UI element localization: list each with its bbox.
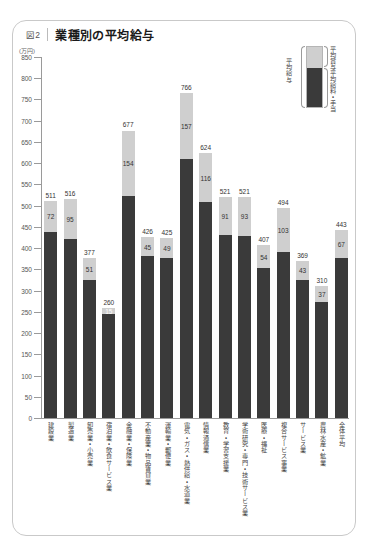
x-axis-category-label: サービス業 (299, 422, 305, 454)
y-axis-tick-label: 800 (0, 75, 32, 82)
x-axis-category-label: 宿泊業・飲食サービス業 (106, 422, 112, 491)
y-axis-tick (34, 227, 41, 228)
y-axis-tick-label: 850 (0, 54, 32, 61)
legend-swatch-bonus (307, 47, 322, 68)
bar-column: 37751 (83, 258, 96, 418)
bar-segment-base (141, 256, 154, 418)
legend-swatch-base (307, 68, 322, 107)
x-axis-category-label: 複合サービス事業 (280, 422, 286, 472)
y-axis-tick-label: 550 (0, 181, 32, 188)
y-axis-tick-label: 350 (0, 266, 32, 273)
bar-segment-base (296, 280, 309, 418)
x-axis-category-label: 運輸業・郵便業 (164, 422, 170, 466)
bar-bonus-label: 116 (201, 174, 211, 181)
legend-bonus-brace (324, 46, 328, 67)
x-axis-category-label: 電気・ガス・熱供給・水道業 (183, 422, 189, 504)
y-axis-tick-label: 100 (0, 372, 32, 379)
bar-segment-base (199, 202, 212, 418)
y-axis-tick-label: 200 (0, 330, 32, 337)
bar-column: 51695 (64, 199, 77, 418)
title-separator (47, 28, 48, 41)
bar-total-label: 310 (317, 277, 328, 284)
y-axis-tick (34, 418, 41, 419)
y-axis-tick (34, 57, 41, 58)
bar-bonus-label: 37 (318, 291, 325, 298)
bar-segment-base (257, 268, 270, 418)
y-axis-tick-label: 0 (0, 415, 32, 422)
legend-bonus-label: 平均賞与 (329, 46, 335, 70)
y-axis-tick-label: 750 (0, 96, 32, 103)
x-axis-category-label: 農林水産・鉱業 (319, 422, 325, 466)
bar-segment-base (335, 258, 348, 418)
x-axis-category-label: 金融業・保険業 (125, 422, 131, 466)
y-axis-tick (34, 206, 41, 207)
x-axis-category-label: 卸売業・小売業 (86, 422, 92, 466)
y-axis-tick-label: 300 (0, 287, 32, 294)
legend-total-label: 平均給与 (285, 58, 291, 83)
bar-segment-base (122, 196, 135, 418)
bar-bonus-label: 103 (278, 227, 289, 234)
bar-column: 31037 (315, 286, 328, 418)
x-axis-category-label: 学術研究・専門・技術サービス業 (241, 422, 247, 517)
chart-page: 図2 業種別の平均給与 (万円) 05010015020025030035040… (0, 0, 370, 549)
y-axis-tick (34, 99, 41, 100)
bar-column: 51172 (44, 201, 57, 418)
bar-total-label: 426 (142, 228, 153, 235)
y-axis-tick (34, 312, 41, 313)
y-axis-tick (34, 376, 41, 377)
y-axis-tick (34, 269, 41, 270)
bar-column: 26015 (102, 308, 115, 418)
y-axis-tick (34, 397, 41, 398)
x-axis-category-label: 製造業 (67, 422, 73, 441)
y-axis-tick-label-box: 100 (0, 376, 32, 383)
y-axis-tick-label-box: 550 (0, 184, 32, 191)
x-axis-category-label: 情報通信業 (203, 422, 209, 454)
y-axis-tick-label-box: 750 (0, 99, 32, 106)
y-axis-tick-label-box: 250 (0, 312, 32, 319)
bar-segment-base (180, 159, 193, 418)
x-axis-category-label: 医療・福祉 (261, 422, 267, 454)
x-axis-category-label: 全体平均 (338, 422, 344, 447)
x-axis-category-label: 教育・学習支援業 (222, 422, 228, 472)
bar-total-label: 624 (200, 144, 211, 151)
y-axis-tick (34, 354, 41, 355)
bar-segment-base (64, 239, 77, 418)
bar-bonus-label: 93 (241, 213, 248, 220)
bar-column: 677154 (122, 130, 135, 418)
bar-total-label: 369 (297, 252, 308, 259)
x-axis-line (41, 418, 349, 419)
y-axis-tick (34, 291, 41, 292)
bar-segment-base (102, 314, 115, 418)
bar-segment-base (219, 235, 232, 418)
y-axis-tick-label: 250 (0, 308, 32, 315)
bar-bonus-label: 157 (181, 123, 192, 130)
bar-bonus-label: 54 (260, 253, 267, 260)
y-axis-tick-label: 700 (0, 117, 32, 124)
bar-segment-base (315, 302, 328, 418)
y-axis-tick-label-box: 800 (0, 78, 32, 85)
bar-total-label: 511 (46, 192, 56, 199)
y-axis-tick-label-box: 50 (0, 397, 32, 404)
bar-column: 44367 (335, 230, 348, 418)
bar-bonus-label: 72 (47, 213, 54, 220)
y-axis-tick-label-box: 850 (0, 57, 32, 64)
legend-swatch (306, 46, 323, 108)
bar-column: 624116 (199, 153, 212, 418)
y-axis-tick-label-box: 450 (0, 227, 32, 234)
bar-total-label: 677 (123, 121, 134, 128)
y-axis-tick (34, 163, 41, 164)
y-axis-tick (34, 333, 41, 334)
x-axis-category-label: 建設業 (48, 422, 54, 441)
y-axis-tick-label-box: 300 (0, 291, 32, 298)
y-axis-tick-label: 150 (0, 351, 32, 358)
bar-bonus-label: 15 (105, 307, 112, 314)
bar-total-label: 494 (278, 199, 289, 206)
y-axis-tick-label-box: 0 (0, 418, 32, 425)
bar-segment-base (44, 232, 57, 418)
bar-bonus-label: 154 (123, 160, 134, 167)
x-axis-category-labels: 建設業製造業卸売業・小売業宿泊業・飲食サービス業金融業・保険業不動産業・物品賃貸… (41, 422, 351, 532)
y-axis-tick-label: 650 (0, 138, 32, 145)
bar-column: 52191 (219, 197, 232, 418)
bar-column: 42549 (160, 238, 173, 419)
y-axis-tick (34, 248, 41, 249)
